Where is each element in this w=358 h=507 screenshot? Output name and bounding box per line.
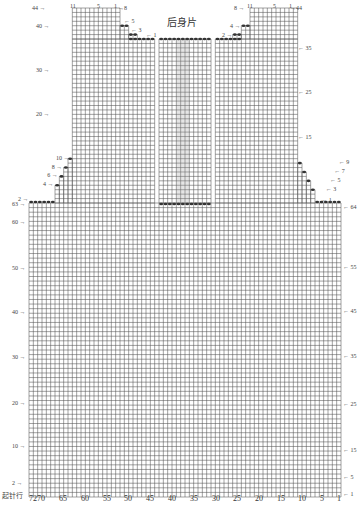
shoulder-label-right: 2 → xyxy=(222,32,233,38)
row-label-right: ← 35 xyxy=(298,45,312,51)
armhole-label-left: 10 → xyxy=(56,155,70,161)
x-tick-label: 72 xyxy=(29,494,37,503)
x-tick-label: 25 xyxy=(233,494,241,503)
shoulder-label-left: →8 xyxy=(118,5,127,11)
row-label-left: 10 → xyxy=(12,443,26,449)
x-tick-label: 20 xyxy=(255,494,263,503)
row-label-right: ← 25 xyxy=(343,401,357,407)
row-label-right: ← 35 xyxy=(343,353,357,359)
chart-title: 后身片 xyxy=(167,14,197,29)
x-tick-label: 15 xyxy=(277,494,285,503)
row-label-right: ← 25 xyxy=(298,89,312,95)
row-label-left: 40 → xyxy=(12,309,26,315)
armhole-label-right: ← 5 xyxy=(330,177,341,183)
shoulder-label-right: 8 → xyxy=(234,5,245,11)
x-tick-label: 10 xyxy=(298,494,306,503)
x-tick-label: 30 xyxy=(212,494,220,503)
x-tick-label: 60 xyxy=(81,494,89,503)
shoulder-label-left: ← 1 xyxy=(146,32,157,38)
x-tick-label: 5 xyxy=(320,494,324,503)
row-label-left: 30 → xyxy=(12,354,26,360)
row-label-left: 2 → xyxy=(12,480,23,486)
cast-on-label: 起针行 xyxy=(2,493,23,499)
row-label-right: ← 15 xyxy=(298,134,312,140)
armhole-label-left: 4 → xyxy=(43,181,54,187)
x-tick-label: 40 xyxy=(168,494,176,503)
col-label: 11 xyxy=(70,3,76,9)
shoulder-label-right: 4 → xyxy=(230,23,241,29)
shoulder-label-left: ← 5 xyxy=(124,18,135,24)
shoulder-label-left: ← 3 xyxy=(131,27,142,33)
col-label: 1 xyxy=(289,3,292,9)
x-tick-label: 55 xyxy=(103,494,111,503)
x-tick-label: 45 xyxy=(146,494,154,503)
row-label-left: 20 → xyxy=(36,111,50,117)
row-label-left: 44 → xyxy=(32,5,46,11)
x-tick-label: 70 xyxy=(37,494,45,503)
row-label-right: ← 45 xyxy=(343,308,357,314)
row-label-right: ← 64 xyxy=(343,204,357,210)
armhole-label-right: ← 3 xyxy=(326,186,337,192)
x-tick-label: 35 xyxy=(190,494,198,503)
row-label-right: ← 55 xyxy=(343,264,357,270)
row-label-left: 20 → xyxy=(12,400,26,406)
row-label-right: ← 5 xyxy=(343,474,354,480)
col-label: 1 xyxy=(114,3,117,9)
row-label-right: ← 1 xyxy=(343,491,354,497)
col-label: 5 xyxy=(97,3,100,9)
row-label-left: 60 → xyxy=(12,219,26,225)
x-tick-label: 65 xyxy=(59,494,67,503)
row-label-left: 50 → xyxy=(12,265,26,271)
row-label-left: 40 → xyxy=(36,23,50,29)
knitting-chart xyxy=(0,0,358,507)
armhole-label-left: 6 → xyxy=(47,172,58,178)
row-label-left: 30 → xyxy=(36,67,50,73)
col-label: 5 xyxy=(273,3,276,9)
x-tick-label: 50 xyxy=(124,494,132,503)
armhole-label-right: ← 7 xyxy=(334,168,345,174)
x-tick-label: 1 xyxy=(337,494,341,503)
col-label: 11 xyxy=(247,3,253,9)
armhole-label-right: ← 1 xyxy=(321,197,332,203)
armhole-label-left: 2 → xyxy=(18,196,29,202)
row-label-right: ← 15 xyxy=(343,447,357,453)
armhole-label-left: 8 → xyxy=(52,164,63,170)
armhole-label-right: ← 9 xyxy=(339,159,350,165)
